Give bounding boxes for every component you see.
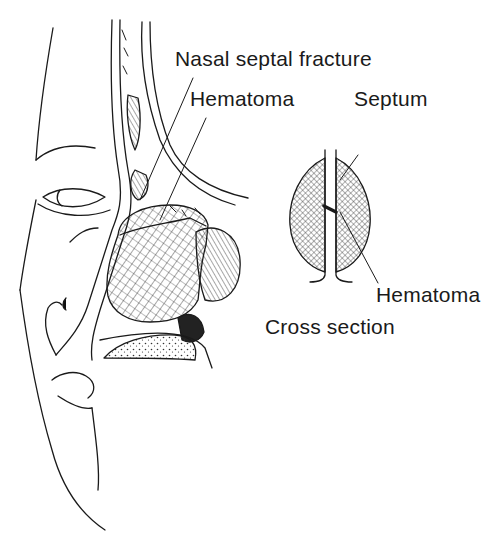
label-cross-section: Cross section [265,316,395,337]
nose-tip [46,302,62,355]
eyebrow [36,146,95,160]
label-septum: Septum [354,88,428,109]
cross-section-figure [290,150,370,282]
hematoma-lateral [107,205,208,322]
forehead-outline [36,28,53,160]
upper-lip [52,373,94,398]
eye-outline [43,189,105,207]
leader-hematoma-main [160,118,206,220]
nasal-septal-hematoma-diagram: Nasal septal fracture Hematoma Septum He… [0,0,503,542]
label-hematoma-cross: Hematoma [376,284,480,305]
lower-lip [58,396,92,408]
label-nasal-septal-fracture: Nasal septal fracture [175,48,372,69]
label-hematoma-main: Hematoma [190,88,294,109]
illustration [0,0,503,542]
